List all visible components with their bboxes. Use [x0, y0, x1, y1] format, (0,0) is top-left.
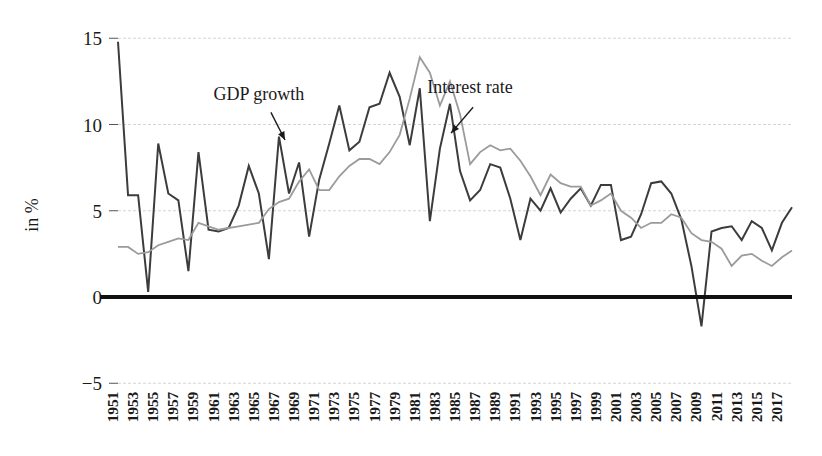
x-axis-tick-labels: 1951195319551957195919611963196519671969… — [104, 392, 785, 423]
x-tick-label: 1963 — [225, 392, 242, 423]
x-tick-label: 1957 — [164, 392, 181, 423]
x-tick-label: 2009 — [687, 392, 704, 423]
y-tick-label: −5 — [82, 373, 102, 394]
x-tick-label: 1981 — [406, 392, 423, 422]
x-tick-label: 1997 — [567, 392, 584, 423]
x-tick-label: 1977 — [366, 392, 383, 423]
annotation-label-interest-rate: Interest rate — [427, 77, 512, 97]
x-tick-label: 1959 — [184, 392, 201, 423]
x-tick-label: 1955 — [144, 392, 161, 423]
x-tick-label: 1961 — [205, 392, 222, 422]
x-tick-label: 1999 — [587, 392, 604, 423]
y-tick-label: 15 — [83, 28, 102, 49]
x-tick-label: 1965 — [245, 392, 262, 423]
x-tick-label: 1951 — [104, 392, 121, 422]
x-tick-label: 2001 — [607, 392, 624, 422]
x-tick-label: 1967 — [265, 392, 282, 423]
x-tick-label: 1979 — [386, 392, 403, 423]
y-axis-title: in % — [22, 198, 42, 232]
x-tick-label: 2003 — [627, 392, 644, 423]
x-tick-label: 1953 — [124, 392, 141, 423]
x-tick-label: 1971 — [305, 392, 322, 422]
chart-figure: −5051015 1951195319551957195919611963196… — [0, 0, 822, 456]
x-tick-label: 1991 — [506, 392, 523, 422]
x-tick-label: 2015 — [748, 392, 765, 423]
x-tick-label: 1989 — [486, 392, 503, 423]
x-tick-label: 1985 — [446, 392, 463, 423]
x-tick-label: 2005 — [647, 392, 664, 423]
y-axis-tick-labels: −5051015 — [82, 28, 118, 394]
y-tick-label: 5 — [93, 201, 103, 222]
x-tick-label: 1993 — [527, 392, 544, 423]
x-tick-label: 1995 — [547, 392, 564, 423]
annotation-label-gdp-growth: GDP growth — [213, 84, 304, 104]
x-tick-label: 2007 — [667, 392, 684, 423]
y-tick-label: 10 — [83, 115, 102, 136]
line-chart: −5051015 1951195319551957195919611963196… — [0, 0, 822, 456]
x-tick-label: 1975 — [345, 392, 362, 423]
x-tick-label: 2011 — [708, 392, 725, 421]
x-tick-label: 2017 — [768, 392, 785, 423]
x-tick-label: 1973 — [325, 392, 342, 423]
x-tick-label: 2013 — [728, 392, 745, 423]
x-tick-label: 1987 — [466, 392, 483, 423]
x-tick-label: 1969 — [285, 392, 302, 423]
x-tick-label: 1983 — [426, 392, 443, 423]
